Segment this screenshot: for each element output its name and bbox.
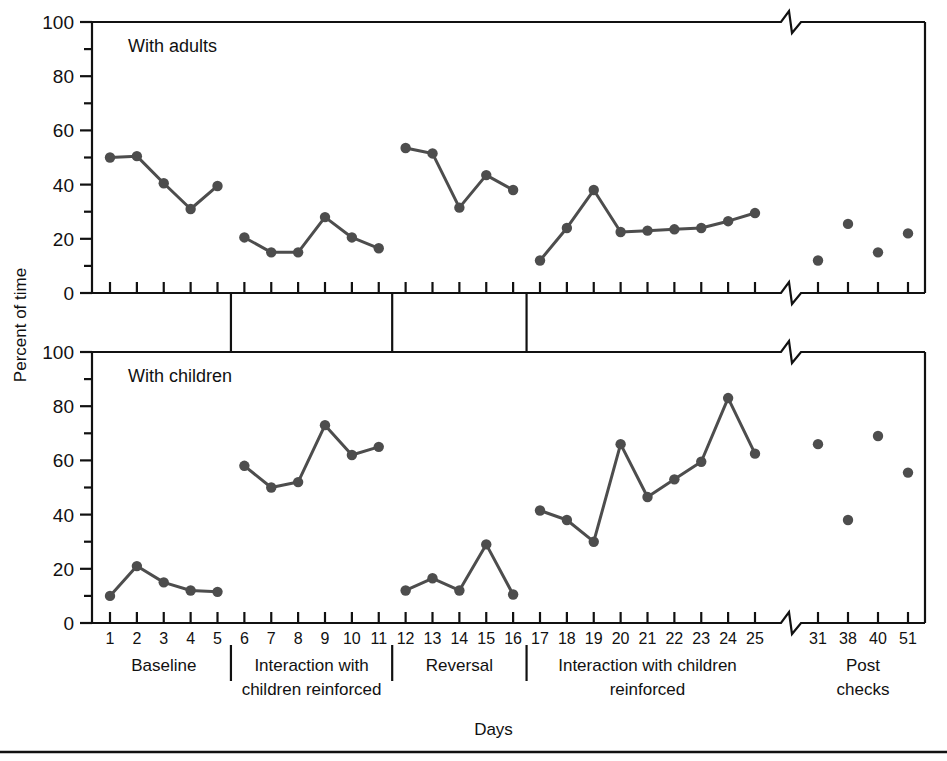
panel-title: With adults (128, 36, 217, 56)
y-tick-label: 20 (53, 229, 74, 250)
x-tick-label: 8 (294, 630, 303, 647)
data-point (873, 247, 883, 257)
data-point (642, 225, 652, 235)
y-tick-label: 20 (53, 559, 74, 580)
x-tick-label: 21 (639, 630, 657, 647)
x-tick-label: 17 (531, 630, 549, 647)
phase-label: Post (846, 656, 880, 675)
phase-label: Interaction with children (558, 656, 737, 675)
data-point (212, 587, 222, 597)
data-point (320, 212, 330, 222)
data-point (873, 431, 883, 441)
phase-label: reinforced (610, 680, 686, 699)
y-tick-label: 60 (53, 120, 74, 141)
y-tick-label: 80 (53, 396, 74, 417)
data-point (723, 216, 733, 226)
x-tick-label: 6 (240, 630, 249, 647)
data-point (508, 185, 518, 195)
x-tick-label: 7 (267, 630, 276, 647)
data-point (615, 227, 625, 237)
x-axis-title: Days (474, 720, 513, 739)
phase-label: Reversal (426, 656, 493, 675)
y-tick-label: 0 (63, 283, 74, 304)
data-line-interaction-with-children-reinforced (244, 217, 378, 252)
x-tick-label: 20 (612, 630, 630, 647)
y-tick-label: 100 (42, 342, 74, 363)
data-point (750, 208, 760, 218)
y-tick-label: 60 (53, 450, 74, 471)
data-point (481, 170, 491, 180)
data-point (185, 585, 195, 595)
data-point (427, 148, 437, 158)
data-point (535, 505, 545, 515)
y-tick-label: 40 (53, 175, 74, 196)
phase-labels: BaselineInteraction withchildren reinfor… (131, 656, 889, 699)
data-point (843, 219, 853, 229)
data-point (481, 539, 491, 549)
data-point (454, 202, 464, 212)
data-point (374, 442, 384, 452)
data-point (903, 228, 913, 238)
phase-label: Baseline (131, 656, 196, 675)
phase-label: children reinforced (242, 680, 382, 699)
data-point (159, 577, 169, 587)
data-point (293, 247, 303, 257)
panel-title: With children (128, 366, 232, 386)
x-tick-label: 2 (132, 630, 141, 647)
data-point (266, 482, 276, 492)
x-tick-label: 15 (477, 630, 495, 647)
x-tick-label: 3 (159, 630, 168, 647)
x-tick-label: 22 (665, 630, 683, 647)
x-tick-labels: 1234567891011121314151617181920212223242… (106, 630, 917, 647)
data-point (293, 477, 303, 487)
x-tick-label: 38 (839, 630, 857, 647)
data-point (320, 420, 330, 430)
data-point (813, 439, 823, 449)
data-point (159, 178, 169, 188)
data-point (696, 223, 706, 233)
data-point (212, 181, 222, 191)
panel-with-adults: 020406080100With adults (42, 11, 925, 304)
x-tick-label: 9 (321, 630, 330, 647)
data-point (903, 467, 913, 477)
data-point (723, 393, 733, 403)
data-point (813, 255, 823, 265)
x-tick-label: 18 (558, 630, 576, 647)
phase-label: Interaction with (254, 656, 368, 675)
x-tick-label: 12 (397, 630, 415, 647)
x-tick-label: 24 (719, 630, 737, 647)
data-point (696, 457, 706, 467)
data-point (239, 461, 249, 471)
x-tick-label: 13 (424, 630, 442, 647)
x-tick-label: 14 (450, 630, 468, 647)
data-line-interaction-with-children-reinforced-2 (540, 398, 755, 542)
data-point (562, 223, 572, 233)
data-point (400, 585, 410, 595)
data-point (589, 537, 599, 547)
y-tick-label: 0 (63, 613, 74, 634)
x-tick-label: 23 (692, 630, 710, 647)
data-point (105, 591, 115, 601)
data-point (427, 573, 437, 583)
x-tick-label: 10 (343, 630, 361, 647)
x-tick-label: 16 (504, 630, 522, 647)
data-point (374, 243, 384, 253)
data-point (508, 589, 518, 599)
data-point (589, 185, 599, 195)
data-point (454, 585, 464, 595)
x-tick-label: 4 (186, 630, 195, 647)
x-tick-label: 51 (899, 630, 917, 647)
x-tick-label: 31 (809, 630, 827, 647)
phase-label: checks (837, 680, 890, 699)
data-line-reversal (406, 148, 514, 208)
data-point (347, 450, 357, 460)
data-point (669, 474, 679, 484)
data-point (105, 152, 115, 162)
figure-container: 020406080100With adults020406080100With … (0, 0, 947, 761)
x-tick-label: 11 (370, 630, 387, 647)
data-point (132, 151, 142, 161)
data-point (562, 515, 572, 525)
data-point (185, 204, 195, 214)
x-tick-label: 1 (106, 630, 115, 647)
data-line-interaction-with-children-reinforced (244, 425, 378, 487)
